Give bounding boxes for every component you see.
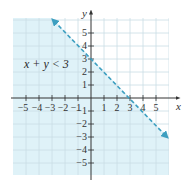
x-tick-label: 5 xyxy=(154,102,159,113)
inequality-label: x + y < 3 xyxy=(23,57,69,71)
x-axis-label: x xyxy=(175,100,181,112)
y-tick-label: −5 xyxy=(76,157,87,168)
x-tick-label: 2 xyxy=(115,102,120,113)
y-tick-label: −2 xyxy=(76,118,87,129)
x-tick-label: 3 xyxy=(128,102,133,113)
x-tick-label: −4 xyxy=(32,102,43,113)
y-tick-label: 1 xyxy=(82,79,87,90)
inequality-graph: −5 −4 −3 −2 −1 1 2 3 4 5 5 4 3 2 1 −1 −2… xyxy=(0,0,190,185)
x-tick-label: 1 xyxy=(102,102,107,113)
x-tick-label: −5 xyxy=(18,102,29,113)
y-tick-label: −1 xyxy=(76,105,87,116)
y-tick-label: 4 xyxy=(82,40,87,51)
y-tick-label: −4 xyxy=(76,144,87,155)
y-axis-label: y xyxy=(81,7,87,19)
x-tick-label: −2 xyxy=(58,102,69,113)
y-tick-label: 2 xyxy=(82,66,87,77)
y-tick-label: −3 xyxy=(76,131,87,142)
x-tick-label: −3 xyxy=(45,102,56,113)
y-tick-label: 5 xyxy=(82,27,87,38)
